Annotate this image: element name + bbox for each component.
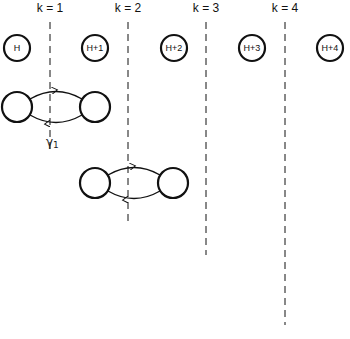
svg-text:H+3: H+3: [244, 43, 261, 53]
column-labels: k = 1 k = 2 k = 3 k = 4: [37, 1, 299, 15]
transition-diagram: k = 1 k = 2 k = 3 k = 4 H H+1 H+2 H+3: [0, 0, 350, 339]
node-h: H: [4, 35, 30, 61]
loop1-right-node: [80, 92, 110, 122]
loop2-left-node: [80, 168, 110, 198]
column-label-k1: k = 1: [37, 1, 64, 15]
node-h-plus-2: H+2: [161, 35, 187, 61]
loop2-right-node: [158, 168, 188, 198]
loop-gamma-1: γ1: [2, 90, 110, 150]
node-h-plus-1: H+1: [82, 35, 108, 61]
column-label-k4: k = 4: [272, 1, 299, 15]
node-h-plus-3: H+3: [239, 35, 265, 61]
node-h-plus-4: H+4: [317, 35, 343, 61]
svg-text:H+4: H+4: [322, 43, 339, 53]
loop1-left-node: [2, 92, 32, 122]
gamma-1-label: γ1: [46, 135, 59, 150]
svg-text:H+1: H+1: [87, 43, 104, 53]
svg-text:H: H: [14, 43, 21, 53]
column-label-k3: k = 3: [193, 1, 220, 15]
loop-gamma-2: [80, 166, 188, 200]
svg-text:H+2: H+2: [166, 43, 183, 53]
column-label-k2: k = 2: [115, 1, 142, 15]
top-nodes: H H+1 H+2 H+3 H+4: [4, 35, 343, 61]
